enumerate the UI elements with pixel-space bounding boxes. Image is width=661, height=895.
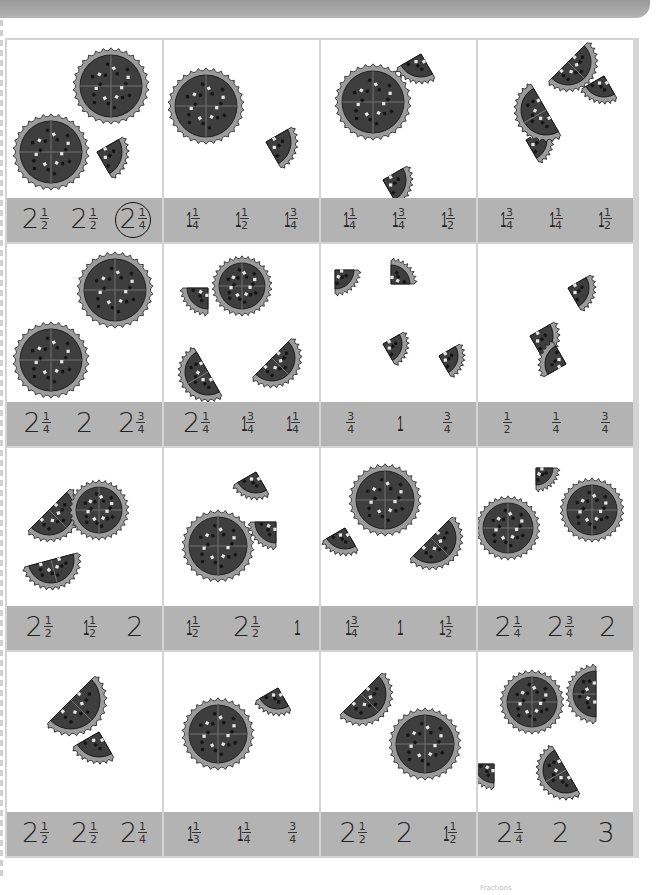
fraction: 12 [40,207,49,231]
answer-option[interactable]: 212 [18,817,53,851]
denominator: 2 [447,219,454,231]
denominator: 2 [90,833,97,845]
answer-option[interactable]: 112 [230,203,253,237]
denominator: 2 [359,833,366,845]
answer-option[interactable]: 1 [392,407,405,441]
denominator: 4 [192,219,199,231]
denominator: 4 [139,219,146,231]
answer-option[interactable]: 114 [281,407,304,441]
answer-option[interactable]: 2 [392,817,417,851]
answer-option[interactable]: 34 [438,407,456,441]
answer-option[interactable]: 34 [283,817,301,851]
answer-option[interactable]: 134 [495,203,518,237]
answer-option[interactable]: 134 [236,407,259,441]
answer-option[interactable]: 34 [596,407,614,441]
fraction: 34 [136,411,145,435]
fraction: 34 [246,411,255,435]
top-banner [0,0,650,18]
answer-option[interactable]: 1 [392,611,405,645]
answer-option[interactable]: 1 [289,611,302,645]
fraction: 14 [242,821,251,845]
answer-option[interactable]: 113 [182,817,205,851]
answer-option[interactable]: 234 [114,407,149,441]
answer-option[interactable]: 212 [336,817,371,851]
answer-option[interactable]: 112 [438,817,461,851]
answer-option-circled[interactable]: 214 [115,202,151,238]
pizza-picture [7,448,162,606]
denominator: 2 [45,627,52,639]
answer-option[interactable]: 112 [78,611,101,645]
numerator: 1 [514,821,523,833]
quarter-pizza-icon [180,288,209,316]
answer-option[interactable]: 114 [544,203,567,237]
whole-pizza-icon [13,114,89,190]
answer-option[interactable]: 212 [18,203,53,237]
answer-option[interactable]: 134 [387,203,410,237]
answer-option[interactable]: 212 [66,203,101,237]
whole-number: 1 [343,203,346,237]
whole-pizza-icon [500,670,564,734]
answer-option[interactable]: 134 [279,203,302,237]
answer-option[interactable]: 114 [181,203,204,237]
answer-option[interactable]: 2 [122,611,147,645]
whole-number: 1 [295,611,298,645]
answer-option[interactable]: 212 [22,611,57,645]
answer-option[interactable]: 214 [492,817,527,851]
answer-option[interactable]: 12 [498,407,516,441]
answer-option[interactable]: 214 [179,407,214,441]
pizza-picture [7,652,162,812]
answer-option[interactable]: 14 [547,407,565,441]
answer-option[interactable]: 134 [340,611,363,645]
problem-cell: 2142342 [478,448,633,650]
denominator: 4 [506,219,513,231]
denominator: 3 [193,833,200,845]
problem-cell: 1122121 [164,448,319,650]
fraction: 14 [201,411,210,435]
half-pizza-icon [408,515,476,583]
answer-option[interactable]: 214 [20,407,55,441]
pizza-picture [478,652,633,812]
whole-number: 1 [286,407,289,441]
fraction: 34 [505,207,514,231]
answer-option[interactable]: 212 [67,817,102,851]
whole-pizza-icon [478,496,540,560]
answer-options: 11311434 [164,812,319,856]
denominator: 2 [90,219,97,231]
numerator: 1 [89,821,98,833]
numerator: 3 [246,411,255,423]
quarter-pizza-icon [266,126,310,170]
answer-option[interactable]: 112 [593,203,616,237]
denominator: 4 [139,833,146,845]
answer-option[interactable]: 2 [595,611,620,645]
pizza-picture [478,40,633,198]
answer-option[interactable]: 114 [232,817,255,851]
whole-number: 1 [500,203,503,237]
quarter-pizza-icon [71,732,115,776]
answer-option[interactable]: 2 [72,407,97,441]
whole-number: 2 [120,203,137,235]
numerator: 1 [513,615,522,627]
answer-option[interactable]: 112 [181,611,204,645]
problem-cell: 214134114 [164,244,319,446]
answer-option[interactable]: 34 [341,407,359,441]
answer-option[interactable]: 212 [229,611,264,645]
pizza-fraction-grid: 212212214 114112134 114134112 134114112 … [5,38,639,858]
answer-option[interactable]: 112 [434,611,457,645]
whole-number: 1 [397,611,400,645]
whole-pizza-icon [560,478,624,542]
answer-option[interactable]: 234 [543,611,578,645]
denominator: 4 [351,627,358,639]
numerator: 1 [291,411,300,423]
answer-option[interactable]: 214 [491,611,526,645]
answer-option[interactable]: 114 [338,203,361,237]
denominator: 4 [514,627,521,639]
fraction: 12 [446,207,455,231]
answer-option[interactable]: 3 [594,817,619,851]
answer-option[interactable]: 112 [436,203,459,237]
answer-option[interactable]: 214 [116,817,151,851]
answer-options: 121434 [478,402,633,446]
answer-option[interactable]: 2 [548,817,573,851]
denominator: 2 [41,219,48,231]
fraction: 12 [44,615,53,639]
denominator: 4 [515,833,522,845]
